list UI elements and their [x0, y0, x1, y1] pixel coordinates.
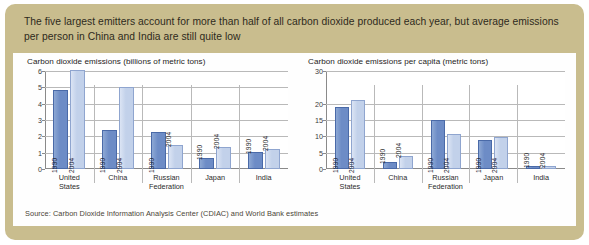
y-tick-label: 20	[315, 99, 323, 108]
bar-year-label: 1990	[196, 144, 203, 159]
y-tick-mark	[323, 153, 326, 154]
y-tick-mark	[323, 169, 326, 170]
bar-year-label: 2004	[68, 158, 75, 173]
bar-year-label: 2004	[395, 142, 402, 157]
category-label: United States	[326, 173, 374, 191]
bar-year-label: 1990	[523, 153, 530, 168]
y-tick-label: 10	[315, 132, 323, 141]
figure-root: The five largest emitters account for mo…	[0, 0, 589, 245]
bar-year-label: 1990	[332, 158, 339, 173]
y-tick-mark	[323, 104, 326, 105]
bar-year-label: 1990	[51, 158, 58, 173]
bar-year-label: 1990	[475, 158, 482, 173]
y-axis-labels: 0510152030	[302, 71, 323, 169]
y-tick-mark	[323, 71, 326, 72]
bar-year-label: 1990	[379, 149, 386, 164]
category-separator	[142, 85, 143, 183]
gridline	[326, 71, 565, 72]
y-tick-label: 30	[315, 67, 323, 76]
source-note: Source: Carbon Dioxide Information Analy…	[25, 209, 318, 218]
category-label: United States	[45, 173, 94, 191]
category-label: India	[239, 173, 288, 182]
category-separator	[422, 85, 423, 183]
y-tick-mark	[323, 136, 326, 137]
category-separator	[469, 85, 470, 183]
chart-per-capita-emissions: Carbon dioxide emissions per capita (met…	[300, 57, 572, 197]
chart-title: Carbon dioxide emissions per capita (met…	[308, 57, 488, 66]
category-label: Russian Federation	[142, 173, 191, 191]
bar-2004-india	[265, 149, 280, 169]
y-tick-mark	[42, 87, 45, 88]
bar-year-label: 2004	[491, 158, 498, 173]
bar-year-label: 1990	[245, 138, 252, 153]
category-label: India	[517, 173, 565, 182]
chart-total-emissions: Carbon dioxide emissions (billions of me…	[23, 57, 295, 197]
category-label: China	[374, 173, 422, 182]
category-label: Russian Federation	[422, 173, 470, 191]
category-separator	[374, 85, 375, 183]
y-tick-mark	[42, 120, 45, 121]
category-label: Japan	[191, 173, 240, 182]
bar-year-label: 2004	[116, 158, 123, 173]
bar-2004-japan	[216, 147, 231, 169]
y-tick-mark	[42, 71, 45, 72]
y-axis-labels: 0123456	[25, 71, 42, 169]
bar-year-label: 1990	[99, 158, 106, 173]
category-separator	[94, 85, 95, 183]
bar-year-label: 1990	[148, 158, 155, 173]
y-tick-mark	[323, 120, 326, 121]
category-separator	[239, 85, 240, 183]
category-separator	[191, 85, 192, 183]
figure-headline: The five largest emitters account for mo…	[14, 11, 576, 53]
category-label: China	[94, 173, 143, 182]
y-tick-mark	[42, 136, 45, 137]
bar-year-label: 2004	[213, 133, 220, 148]
plot-area: 1990200419902004199020041990200419902004	[45, 71, 288, 169]
y-tick-mark	[42, 169, 45, 170]
bar-year-label: 2004	[539, 153, 546, 168]
bar-year-label: 2004	[165, 131, 172, 146]
y-tick-mark	[42, 104, 45, 105]
bar-year-label: 2004	[443, 158, 450, 173]
bar-2004-united-states	[70, 70, 85, 169]
y-tick-label: 15	[315, 116, 323, 125]
chart-title: Carbon dioxide emissions (billions of me…	[27, 57, 205, 66]
y-tick-mark	[42, 153, 45, 154]
bar-2004-russian-federation	[168, 145, 183, 170]
bar-year-label: 2004	[348, 158, 355, 173]
bar-year-label: 2004	[262, 136, 269, 151]
charts-panel: Carbon dioxide emissions (billions of me…	[13, 53, 576, 226]
bar-year-label: 1990	[427, 158, 434, 173]
bar-1990-india	[248, 152, 263, 169]
category-separator	[517, 85, 518, 183]
plot-area: 1990200419902004199020041990200419902004	[326, 71, 565, 169]
category-label: Japan	[469, 173, 517, 182]
